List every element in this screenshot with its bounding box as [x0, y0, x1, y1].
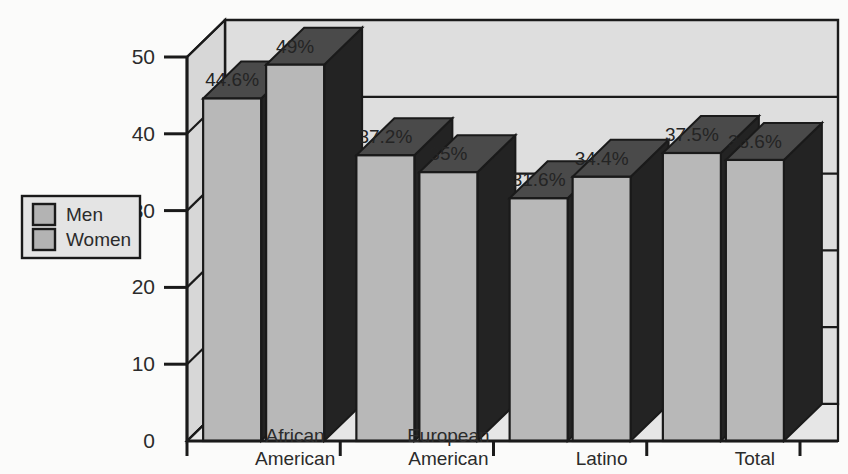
category-label-line: American [408, 448, 488, 469]
bar-value-label: 49% [276, 36, 314, 57]
bar-side-face [784, 123, 822, 441]
legend-swatch-men [33, 204, 55, 225]
category-label-line: Total [735, 448, 775, 469]
x-axis-category-label: Latino [576, 448, 628, 469]
y-axis-tick-label: 10 [132, 352, 155, 375]
bar-column[interactable] [419, 135, 515, 441]
category-label-line: European [407, 425, 489, 446]
bar-front-face [510, 198, 568, 441]
bar-value-label: 34.4% [575, 148, 629, 169]
bar-front-face [663, 153, 721, 441]
bar-front-face [573, 177, 631, 441]
legend-label-men: Men [66, 204, 103, 225]
bar-value-label: 35% [429, 143, 467, 164]
bar-value-label: 44.6% [205, 69, 259, 90]
y-axis-tick-label: 0 [143, 429, 155, 452]
bar-value-label: 37.2% [358, 126, 412, 147]
bar-value-label: 36.6% [728, 131, 782, 152]
bar-front-face [266, 65, 324, 441]
category-label-line: African [266, 425, 325, 446]
legend-item-men[interactable]: Men [33, 204, 103, 225]
category-label-line: Latino [576, 448, 628, 469]
bar-chart-figure: 01020304050 AfricanAmericanEuropeanAmeri… [0, 0, 848, 474]
bar-front-face [356, 155, 414, 441]
bar-value-label: 31.6% [512, 169, 566, 190]
category-label-line: American [255, 448, 335, 469]
bar-front-face [726, 160, 784, 441]
y-axis-tick-label: 20 [132, 275, 155, 298]
chart-legend[interactable]: Men Women [22, 196, 140, 258]
y-axis-tick-label: 50 [132, 45, 155, 68]
bar-front-face [419, 172, 477, 441]
bar-column[interactable] [726, 123, 822, 441]
bar-value-label: 37.5% [665, 124, 719, 145]
legend-swatch-women [33, 229, 55, 250]
bar-column[interactable] [573, 140, 669, 441]
bar-column[interactable] [266, 28, 362, 441]
bar-front-face [203, 98, 261, 441]
legend-label-women: Women [66, 229, 131, 250]
x-axis-category-label: Total [735, 448, 775, 469]
legend-item-women[interactable]: Women [33, 229, 131, 250]
chart-canvas: 01020304050 AfricanAmericanEuropeanAmeri… [0, 0, 848, 474]
y-axis-tick-label: 40 [132, 122, 155, 145]
